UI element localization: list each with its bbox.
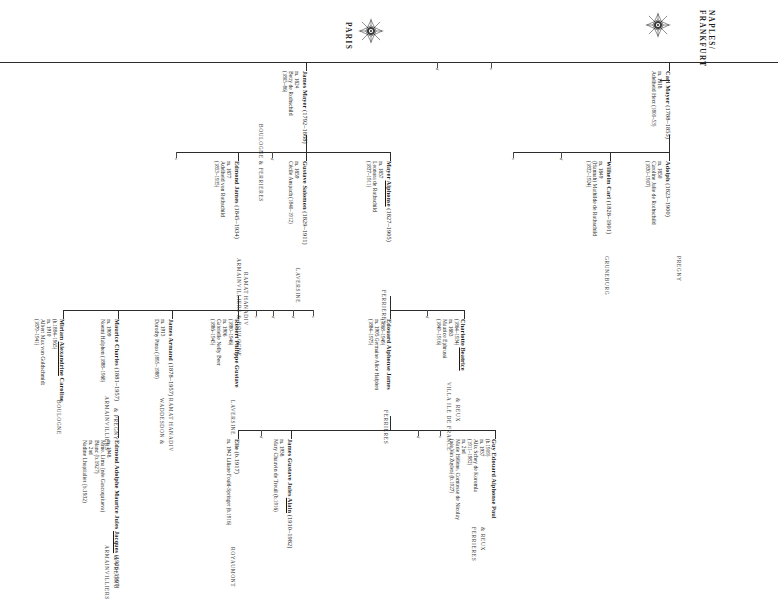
person-maurice-charles-name: Maurice Charles (1881–1957) [114, 319, 121, 401]
person-guy-edouard-marriage: m. 1937 [479, 439, 485, 456]
estate-james-mayer: BOULOGNE & FERRIERES [258, 124, 264, 202]
person-james-armand-spouse: Dorothy Pinto (1895–1988) [153, 319, 160, 379]
stub-label-cm-2: s [511, 158, 516, 160]
person-wilhelm-carl-spouse-dates: (1832–1924) [586, 161, 592, 187]
person-edmond-james-spouse-dates: (1853–1935) [214, 161, 220, 187]
wilhelm-carl-dates: (1828–1901) [606, 201, 613, 235]
person-mayer-alphonse-spouse: Leonora de Rothschild [371, 161, 378, 212]
person-edouard-alphonse-name: Edouard Alphonse James [386, 319, 393, 390]
person-robert-philippe-dates: (1880–1946) [228, 319, 234, 345]
estate-charlotte-beatrice-2: & REUX [455, 398, 461, 422]
person-guy-edouard-dates: (b.1909) [485, 439, 491, 456]
person-charlotte-beatrice-spouse: Maurice Ephrussi [441, 319, 448, 359]
estate-edouard-alphonse: FERRIERES [383, 410, 389, 444]
stub-label-ej-3: d [271, 316, 276, 318]
rule-maurice-child-stem [118, 416, 119, 438]
rule-carl-mayer-stem [669, 62, 670, 71]
branch-label-naples-frankfurt-line2: FRANKFURT [698, 10, 706, 67]
stub-label-cm-1: d [559, 158, 564, 160]
rule-edouard-children-stem [390, 416, 391, 430]
branch-label-naples-frankfurt-line1: NAPLES/ [707, 10, 715, 50]
james-armand-name: James Armand [168, 319, 175, 361]
person-robert-philippe-spouse-dates: (1886–1945) [210, 319, 216, 345]
rule-edmond-children-stem [238, 296, 239, 310]
rule-mayer-alphonse-stem [390, 152, 391, 161]
estate-guy-edouard-2: & REUX [480, 527, 486, 551]
stub-label-g4-3: d [416, 436, 421, 438]
person-jacques-marriage2: m. 2nd [88, 440, 94, 455]
rule-alphonse-children-stem [390, 296, 391, 310]
person-james-armand-marriage: m. 1913 [160, 319, 166, 336]
person-gustave-salomon-name: Gustave Salomon (1829–1911) [302, 161, 309, 245]
person-edmond-james-name: Edmond James (1845–1934) [234, 161, 241, 239]
rule-carl-mayer-children-stem [669, 135, 670, 152]
maurice-charles-spouse-name: Noemi Halphen [100, 319, 106, 355]
stub-label-jm-2: s [174, 158, 179, 160]
person-miriam-spouse: Albert Max von Goldschmidt [39, 319, 46, 385]
rule-gustave-salomon-stem [306, 152, 307, 161]
person-robert-philippe-name: Robert Philippe Gustave [234, 319, 241, 388]
person-adolph-marriage: m. 1850 [657, 161, 663, 178]
person-edouard-alphonse-spouse-dates: (1884–1975) [368, 319, 374, 345]
rule-elie-stem [238, 430, 239, 439]
james-armand-spouse-name: Dorothy Pinto [154, 319, 160, 351]
estate-james-armand-2: RAMAT HANADIV [168, 398, 174, 452]
james-armand-spouse-dates: (1895–1988) [154, 352, 160, 378]
person-alain-spouse: Mary Chauvin de Treuil (b.1916) [272, 439, 279, 512]
rule-james-mayer-children-bus [176, 152, 390, 153]
mayer-alphonse-name-underlined: Alphonse [386, 181, 393, 207]
jacques-name-underlined: Jacques [114, 531, 121, 553]
estate-gustave-salomon: LAVERSINE [295, 268, 301, 303]
miriam-name-underlined: Alexandrine [59, 342, 66, 376]
rule-generation1-spine [0, 62, 778, 63]
person-charlotte-beatrice-spouse-dates: (1849–1916) [436, 319, 442, 345]
miriam-name-tail: Caroline [59, 376, 66, 402]
edmond-james-dates: (1845–1934) [234, 205, 241, 239]
person-carl-mayer-name: Carl Mayer (1788–1855) [665, 71, 672, 139]
edouard-alphonse-name: Edouard Alphonse James [386, 319, 393, 390]
stub-label-top-2: s [489, 68, 494, 70]
branch-label-paris: PARIS [344, 22, 352, 50]
person-guy-edouard-spouse2: Marie Hélène, Comtesse de Nicolay [454, 439, 461, 520]
alain-dates: (1910–1982) [287, 515, 294, 549]
gustave-salomon-spouse-dates: (1840–1912) [288, 197, 294, 223]
person-elie-marriage: m. 1942 Liliane Fould-Springer (b.1916) [226, 439, 232, 525]
estate-edmond-james-2: RAMAT HANADIV [243, 272, 249, 326]
person-edouard-alphonse-dates: (1868–1949) [380, 319, 386, 345]
stub-label-jm-1: d [270, 158, 275, 160]
person-maurice-charles-spouse: Noemi Halphen (1888–1968) [99, 319, 106, 382]
person-mayer-alphonse-spouse-dates: (1837–1911) [366, 161, 372, 187]
rule-carl-mayer-marriage-tie [660, 80, 670, 81]
estate-elie: ROYAUMONT [230, 547, 236, 587]
person-edouard-alphonse-marriage: m. 1905 Germaine Alice Halphen [374, 319, 380, 390]
elie-name: Elie [234, 439, 241, 450]
rule-edmond-children-bus [63, 310, 313, 311]
person-robert-philippe-spouse: Gabrielle Nelly Beer [215, 319, 222, 366]
person-james-armand-name: James Armand (1878–1957) [168, 319, 175, 396]
rule-charlotte-beatrice-stem [464, 310, 465, 319]
person-adolph-spouse-dates: (1830–1907) [645, 161, 651, 187]
rule-edmond-james-stem [238, 152, 239, 161]
edmond-james-name: Edmond James [234, 161, 241, 204]
person-guy-edouard-spouse2-dates: (née Van Zuylen) (b.1927) [449, 439, 455, 493]
person-wilhelm-carl-spouse: (Hannah) Mathilde de Rothschild [591, 161, 598, 236]
rothschild-crest-icon-naples [645, 12, 671, 38]
guy-edouard-name: Guy Edouard Alphonse Paul [491, 439, 498, 519]
alain-spouse-dates: (b.1916) [273, 494, 279, 511]
person-mayer-alphonse-marriage: m. 1857 [378, 161, 384, 178]
adolph-dates: (1823–1900) [665, 183, 672, 217]
person-wilhelm-carl-marriage: m. 1849 [598, 161, 604, 178]
rule-james-armand-stem [172, 310, 173, 319]
elie-spouse-dates: (b.1916) [226, 508, 232, 525]
james-armand-dates: (1878–1957) [168, 363, 175, 397]
stub-label-g4-1: d [259, 436, 264, 438]
stub-label-ej-1: s [311, 316, 316, 318]
carl-mayer-spouse-dates: (1800–53) [651, 105, 657, 126]
estate-robert-philippe: LAVERSINE [230, 400, 236, 435]
person-adolph-spouse: Caroline Julie de Rothschild [650, 161, 657, 225]
person-gustave-salomon-spouse: Cécile Anspach (1840–1912) [287, 161, 294, 224]
person-gustave-salomon-marriage: m. 1859 [294, 161, 300, 178]
person-edmond-james-spouse: Adelheid von Rothschild [219, 161, 226, 217]
rule-alain-stem [291, 430, 292, 439]
